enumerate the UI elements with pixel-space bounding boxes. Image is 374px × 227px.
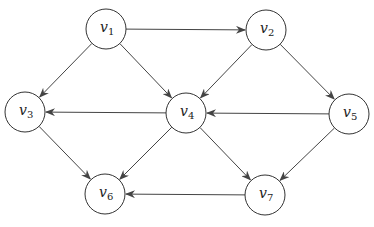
edge-v4-to-v6 (120, 127, 172, 179)
edge-v5-to-v4 (207, 113, 329, 114)
edge-v5-to-v7 (280, 128, 335, 180)
edge-v7-to-v6 (126, 194, 245, 195)
arrow-line (46, 112, 166, 113)
node-v6: v6 (85, 174, 125, 214)
arrow-line (207, 113, 329, 114)
arrow-line (126, 29, 245, 30)
edge-v2-to-v4 (201, 44, 253, 98)
arrow-line (200, 127, 251, 179)
arrow-line (280, 128, 335, 180)
arrow-line (201, 44, 253, 98)
edge-v1-to-v3 (40, 43, 92, 97)
node-v4: v4 (166, 93, 206, 133)
arrow-line (120, 44, 172, 98)
node-v3: v3 (5, 92, 45, 132)
edge-v3-to-v6 (39, 126, 90, 179)
arrow-line (120, 127, 172, 179)
edge-v4-to-v7 (200, 127, 251, 179)
arrow-line (39, 126, 90, 179)
arrow-line (40, 43, 92, 97)
edge-v2-to-v5 (280, 44, 334, 99)
directed-graph: v1v2v3v4v5v6v7 (0, 0, 374, 227)
edge-v1-to-v4 (120, 44, 172, 98)
node-v1: v1 (86, 9, 126, 49)
node-v2: v2 (246, 10, 286, 50)
node-v7: v7 (245, 175, 285, 215)
arrow-line (126, 194, 245, 195)
edge-v4-to-v3 (46, 112, 166, 113)
edge-v1-to-v2 (126, 29, 245, 30)
arrow-line (280, 44, 334, 99)
node-v5: v5 (329, 94, 369, 134)
